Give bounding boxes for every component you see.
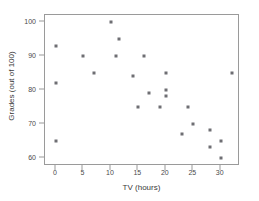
- x-axis-tick-mark: [164, 165, 165, 170]
- y-axis-tick-label: 70: [28, 119, 36, 126]
- x-axis-tick-mark: [82, 165, 83, 170]
- data-point: [93, 71, 96, 74]
- y-axis-tick-label: 90: [28, 51, 36, 58]
- y-axis-tick-label: 100: [24, 17, 36, 24]
- data-point: [137, 105, 140, 108]
- data-point: [159, 105, 162, 108]
- data-point: [118, 37, 121, 40]
- x-axis-tick-mark: [219, 165, 220, 170]
- y-axis-tick-label: 60: [28, 153, 36, 160]
- data-point: [219, 139, 222, 142]
- data-point: [181, 132, 184, 135]
- x-axis-tick-mark: [54, 165, 55, 170]
- plot-area: [44, 14, 239, 165]
- data-point: [164, 88, 167, 91]
- data-point: [131, 75, 134, 78]
- x-axis-tick-label: 5: [80, 169, 84, 176]
- data-point: [109, 20, 112, 23]
- data-point: [142, 54, 145, 57]
- x-axis-tick-label: 0: [53, 169, 57, 176]
- data-point: [164, 95, 167, 98]
- data-point: [208, 129, 211, 132]
- y-axis-title: Grades (out of 100): [8, 26, 16, 146]
- data-point: [219, 156, 222, 159]
- data-point: [208, 146, 211, 149]
- x-axis-tick-label: 15: [133, 169, 141, 176]
- data-point: [186, 105, 189, 108]
- data-point: [192, 122, 195, 125]
- data-point: [54, 81, 57, 84]
- y-axis-tick-label: 80: [28, 85, 36, 92]
- x-axis-tick-label: 25: [188, 169, 196, 176]
- data-point: [54, 139, 57, 142]
- data-point: [230, 71, 233, 74]
- data-point: [54, 44, 57, 47]
- data-point: [82, 54, 85, 57]
- x-axis-tick-mark: [192, 165, 193, 170]
- data-point: [148, 92, 151, 95]
- x-axis-title: TV (hours): [44, 184, 239, 192]
- x-axis-tick-label: 10: [106, 169, 114, 176]
- x-axis-tick-label: 30: [216, 169, 224, 176]
- data-point: [164, 71, 167, 74]
- x-axis-tick-mark: [137, 165, 138, 170]
- scatter-plot-figure: 60708090100 051015202530 TV (hours) Grad…: [0, 0, 259, 201]
- data-point: [115, 54, 118, 57]
- y-axis-tick-labels: 60708090100: [0, 0, 36, 201]
- x-axis-tick-mark: [109, 165, 110, 170]
- x-axis-tick-label: 20: [161, 169, 169, 176]
